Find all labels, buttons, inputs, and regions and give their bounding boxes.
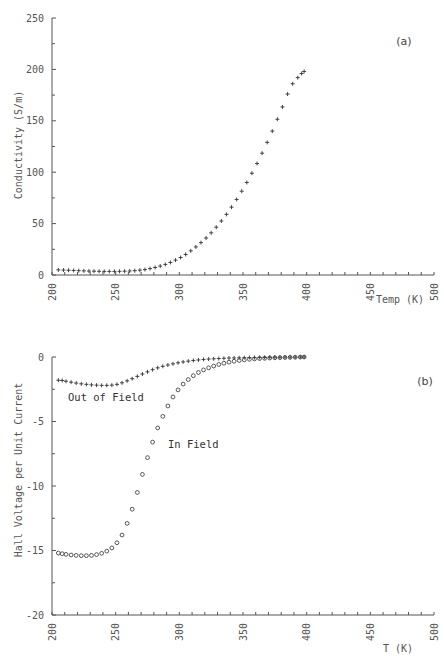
out-of-field-annotation: Out of Field (68, 391, 144, 403)
x-axis-label: T (K) (383, 643, 413, 654)
data-point (69, 553, 73, 557)
data-point (120, 533, 124, 537)
data-point (110, 546, 114, 550)
data-point (232, 359, 236, 363)
y-tick-label: 0 (38, 352, 44, 363)
y-tick-label: -10 (26, 481, 44, 492)
conductivity-chart: 050100150200250 200250300350400450500 (a… (13, 13, 440, 306)
panel-label: (b) (417, 375, 433, 388)
x-tick-label: 450 (365, 283, 376, 301)
data-point (64, 552, 68, 556)
y-tick-label: -5 (32, 416, 44, 427)
data-point (166, 404, 170, 408)
hall-voltage-chart: 0-5-10-15-20 200250300350400450500 (b) O… (13, 352, 440, 655)
hall-series (56, 355, 306, 558)
data-point (130, 507, 134, 511)
data-point (181, 382, 185, 386)
x-tick-label: 350 (238, 623, 249, 641)
x-tick-label: 400 (301, 623, 312, 641)
data-point (212, 364, 216, 368)
y-tick-label: 50 (32, 218, 44, 229)
data-point (135, 491, 139, 495)
x-tick-label: 200 (47, 283, 58, 301)
data-point (156, 426, 160, 430)
data-point (141, 472, 145, 476)
data-point (217, 363, 221, 367)
data-point (60, 552, 64, 556)
y-tick-label: 150 (26, 115, 44, 126)
data-point (95, 553, 99, 557)
x-tick-label: 250 (110, 623, 121, 641)
x-tick-label: 450 (365, 623, 376, 641)
y-tick-label: 0 (38, 270, 44, 281)
x-tick-label: 500 (429, 623, 440, 641)
data-point (125, 522, 129, 526)
data-point (197, 371, 201, 375)
figure: 050100150200250 200250300350400450500 (a… (0, 0, 444, 663)
data-point (176, 388, 180, 392)
x-tick-label: 300 (174, 623, 185, 641)
y-tick-label: 100 (26, 167, 44, 178)
conductivity-series (56, 69, 306, 273)
x-tick-label: 300 (174, 283, 185, 301)
data-point (56, 551, 60, 555)
y-tick-label: -15 (26, 545, 44, 556)
data-point (207, 366, 211, 370)
y-axis-label: Conductivity (S/m) (13, 91, 24, 199)
data-point (105, 549, 109, 553)
data-point (151, 440, 155, 444)
y-ticks: 050100150200250 (26, 13, 56, 281)
data-point (202, 368, 206, 372)
data-point (90, 554, 94, 558)
data-point (146, 456, 150, 460)
y-tick-label: 250 (26, 13, 44, 24)
data-point (222, 361, 226, 365)
data-point (84, 554, 88, 558)
data-point (79, 554, 83, 558)
y-tick-label: -20 (26, 610, 44, 621)
x-tick-label: 200 (47, 623, 58, 641)
x-tick-label: 350 (238, 283, 249, 301)
panel-label: (a) (396, 35, 411, 48)
data-point (115, 541, 119, 545)
data-point (186, 378, 190, 382)
in-field-annotation: In Field (168, 438, 219, 450)
x-axis-label: Temp (K) (376, 294, 424, 305)
data-point (161, 414, 165, 418)
data-point (100, 551, 104, 555)
y-tick-label: 200 (26, 64, 44, 75)
x-tick-label: 500 (429, 283, 440, 301)
x-tick-label: 250 (110, 283, 121, 301)
data-point (74, 554, 78, 558)
y-axis-label: Hall Voltage per Unit Current (13, 383, 24, 558)
data-point (227, 360, 231, 364)
y-ticks: 0-5-10-15-20 (26, 352, 56, 621)
data-point (191, 374, 195, 378)
data-point (171, 395, 175, 399)
x-tick-label: 400 (301, 283, 312, 301)
x-ticks: 200250300350400450500 (47, 612, 440, 641)
